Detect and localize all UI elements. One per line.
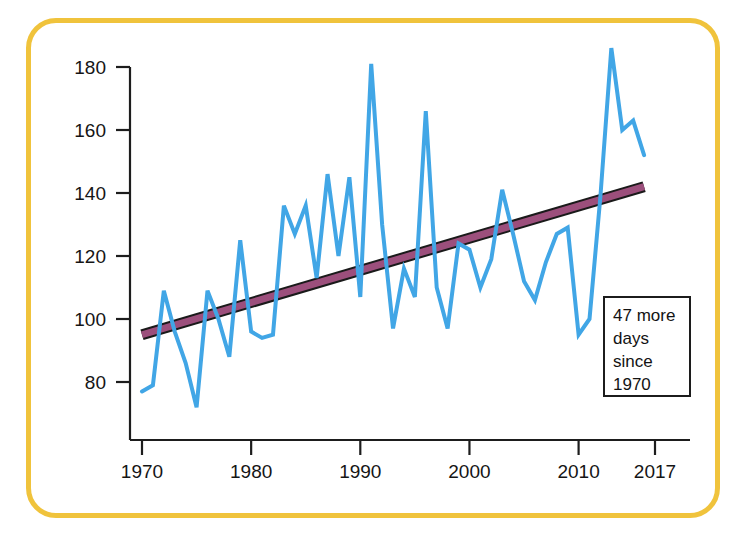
- x-axis-tick-label: 2010: [557, 461, 599, 482]
- data-line: [142, 48, 644, 407]
- figure-root: 80100120140160180 1970198019902000201020…: [0, 0, 746, 536]
- y-axis-tick-labels: 80100120140160180: [74, 57, 106, 393]
- y-axis-tick-label: 120: [74, 246, 106, 267]
- line-chart: 80100120140160180 1970198019902000201020…: [0, 0, 746, 536]
- y-axis-tick-label: 180: [74, 57, 106, 78]
- callout-line-4: 1970: [613, 373, 689, 396]
- y-axis-tick-label: 80: [85, 372, 106, 393]
- x-axis-tick-label: 1970: [121, 461, 163, 482]
- x-axis-tick-labels: 197019801990200020102017: [121, 461, 676, 482]
- data-line-series: [142, 48, 644, 407]
- x-axis-tick-label: 2017: [634, 461, 676, 482]
- callout-line-1: 47 more: [613, 304, 689, 327]
- y-axis-tick-label: 160: [74, 120, 106, 141]
- x-axis-tick-label: 1990: [339, 461, 381, 482]
- y-axis-tick-label: 140: [74, 183, 106, 204]
- x-axis-tick-label: 1980: [230, 461, 272, 482]
- callout-line-2: days: [613, 327, 689, 350]
- callout-line-3: since: [613, 350, 689, 373]
- callout-box: 47 more days since 1970: [603, 296, 691, 397]
- x-axis-tick-label: 2000: [448, 461, 490, 482]
- y-axis-tick-label: 100: [74, 309, 106, 330]
- plot-area: 80100120140160180 1970198019902000201020…: [0, 0, 746, 536]
